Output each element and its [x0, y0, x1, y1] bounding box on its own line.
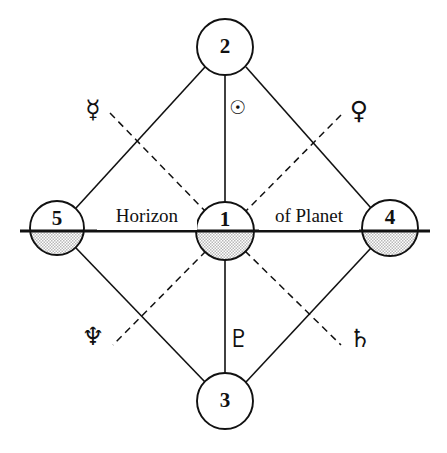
horizon-of-planet-diagram: 2 3 5 4: [0, 0, 447, 453]
top-node-label: 2: [220, 34, 231, 58]
horizon-label-right: of Planet: [275, 205, 344, 226]
diagram-canvas: 2 3 5 4: [0, 0, 447, 453]
bottom-node-label: 3: [220, 388, 231, 412]
right-node-label: 4: [385, 205, 396, 229]
mercury-symbol: ☿: [85, 95, 100, 124]
center-node[interactable]: 1: [195, 202, 257, 264]
horizon-label-left: Horizon: [116, 205, 179, 226]
edge-5-to-2: [76, 67, 205, 208]
saturn-symbol: ♄: [349, 324, 371, 353]
bottom-node[interactable]: 3: [197, 373, 253, 429]
horizon-caption-left: Horizon: [97, 205, 197, 230]
edge-4-to-3: [246, 248, 371, 382]
dashed-mercury-to-1: [110, 113, 206, 212]
edge-3-to-5: [76, 248, 205, 382]
dashed-venus-to-1: [245, 115, 341, 212]
pluto-symbol: ♇: [228, 324, 250, 353]
dashed-1-to-neptune: [113, 251, 206, 345]
venus-symbol: ♀: [350, 96, 368, 125]
neptune-symbol: ♆: [82, 322, 104, 351]
left-node-label: 5: [52, 206, 63, 230]
edge-2-to-4: [246, 67, 371, 208]
top-node[interactable]: 2: [197, 19, 253, 75]
center-node-label: 1: [220, 207, 231, 231]
sun-symbol: ☉: [229, 96, 246, 118]
horizon-caption-right: of Planet: [259, 205, 359, 230]
